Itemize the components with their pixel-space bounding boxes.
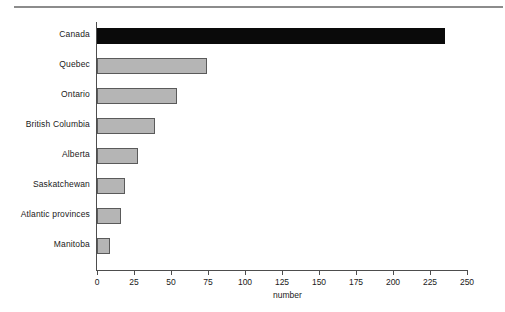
bar-row: Alberta	[0, 142, 505, 172]
bar-row: Manitoba	[0, 232, 505, 262]
x-axis-tick-label: 125	[262, 277, 302, 287]
x-axis-tick-label: 0	[77, 277, 117, 287]
x-axis-tick	[171, 271, 172, 275]
bar-category-label: Alberta	[0, 149, 90, 159]
bar-row: Ontario	[0, 82, 505, 112]
bar-category-label: Manitoba	[0, 239, 90, 249]
bar-row: Saskatchewan	[0, 172, 505, 202]
x-axis-tick-label: 175	[336, 277, 376, 287]
bar-row: Atlantic provinces	[0, 202, 505, 232]
plot-area: CanadaQuebecOntarioBritish ColumbiaAlber…	[0, 0, 505, 312]
bar-category-label: British Columbia	[0, 119, 90, 129]
x-axis-tick-label: 150	[299, 277, 339, 287]
bar-category-label: Ontario	[0, 89, 90, 99]
bar-row: Canada	[0, 22, 505, 52]
bar-category-label: Saskatchewan	[0, 179, 90, 189]
bar	[97, 58, 207, 74]
x-axis-tick	[467, 271, 468, 275]
x-axis-tick-label: 200	[373, 277, 413, 287]
x-axis-tick-label: 50	[151, 277, 191, 287]
bar	[97, 88, 177, 104]
x-axis-tick	[282, 271, 283, 275]
bar	[97, 28, 445, 44]
bar-row: Quebec	[0, 52, 505, 82]
x-axis-tick	[208, 271, 209, 275]
bar-category-label: Quebec	[0, 59, 90, 69]
x-axis-title: number	[0, 290, 505, 300]
bar	[97, 148, 138, 164]
bar	[97, 178, 125, 194]
x-axis-tick-label: 75	[188, 277, 228, 287]
x-axis-tick	[430, 271, 431, 275]
x-axis-tick	[134, 271, 135, 275]
x-axis-tick	[245, 271, 246, 275]
bar	[97, 238, 110, 254]
x-axis-tick	[356, 271, 357, 275]
bar-category-label: Canada	[0, 29, 90, 39]
x-axis-tick-label: 25	[114, 277, 154, 287]
x-axis-tick-label: 225	[410, 277, 450, 287]
bar	[97, 208, 121, 224]
x-axis-tick	[393, 271, 394, 275]
bar	[97, 118, 155, 134]
bar-chart-figure: CanadaQuebecOntarioBritish ColumbiaAlber…	[0, 0, 505, 312]
x-axis-tick-label: 250	[447, 277, 487, 287]
x-axis-tick	[319, 271, 320, 275]
x-axis-tick	[97, 271, 98, 275]
bar-row: British Columbia	[0, 112, 505, 142]
x-axis-tick-label: 100	[225, 277, 265, 287]
bar-category-label: Atlantic provinces	[0, 209, 90, 219]
